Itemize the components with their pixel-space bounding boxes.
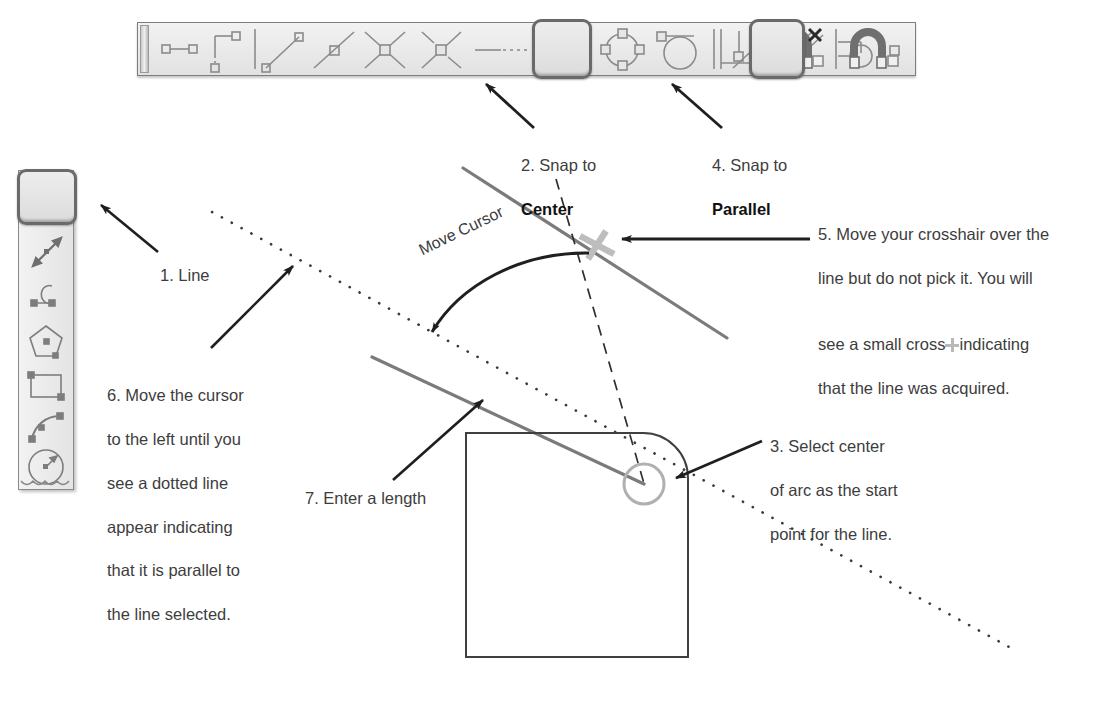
leader-arrow-1: [101, 205, 158, 252]
callout-5-text-line3b: indicating: [959, 335, 1029, 353]
snap-quadrant-icon: [601, 29, 644, 70]
snap-intersection-icon: [365, 32, 405, 68]
snap-parallel-button-pressed[interactable]: [749, 19, 805, 79]
callout-6-move-cursor-left: 6. Move the cursor to the left until you…: [107, 363, 257, 648]
callout-6-text-line1: 6. Move the cursor: [107, 385, 257, 407]
circle-icon: [29, 450, 63, 484]
osnap-settings-magnet-icon: [850, 32, 898, 68]
rectangle-icon: [28, 372, 64, 400]
callout-5-text-line4: that the line was acquired.: [818, 378, 1090, 400]
snap-endpoint-icon: [262, 33, 303, 72]
polygon-icon: [30, 326, 62, 358]
callout-5-text-line3: see a small crossindicating: [818, 312, 1090, 356]
callout-5-crosshair: 5. Move your crosshair over the line but…: [818, 202, 1090, 421]
callout-5-text-line2: line but do not pick it. You will: [818, 268, 1090, 290]
callout-6-text-line2: to the left until you: [107, 429, 257, 451]
object-snap-toolbar[interactable]: [137, 22, 916, 76]
snap-midpoint-icon: [314, 32, 354, 68]
leader-arrow-2: [486, 84, 534, 128]
leader-arrow-4: [672, 84, 722, 128]
callout-3-text-line3: point for the line.: [770, 524, 897, 546]
callout-1-line: 1. Line: [160, 243, 210, 309]
callout-7-enter-length: 7. Enter a length: [305, 466, 426, 532]
move-cursor-arrow: [432, 253, 589, 332]
arc-icon: [29, 413, 63, 442]
snap-apparent-intersection-icon: [422, 32, 461, 68]
callout-3-arc-center: 3. Select center of arc as the start poi…: [770, 414, 897, 568]
callout-1-text: 1. Line: [160, 265, 210, 287]
temporary-track-point-icon: [211, 32, 240, 72]
leader-arrow-6: [211, 266, 293, 348]
leader-arrow-3: [676, 441, 762, 478]
small-cross-icon: [945, 338, 959, 352]
draw-toolbar[interactable]: [18, 170, 74, 490]
callout-5-text-line3a: see a small cross: [818, 335, 945, 353]
snap-center-button-pressed[interactable]: [532, 19, 592, 79]
callout-2-text-line1: 2. Snap to: [521, 155, 596, 177]
callout-2-snap-center: 2. Snap to Center: [521, 133, 596, 243]
snap-tangent-icon: [657, 32, 696, 69]
callout-3-text-line1: 3. Select center: [770, 436, 897, 458]
new-line-being-drawn: [372, 357, 644, 484]
callout-6-text-line5: that it is parallel to: [107, 560, 257, 582]
callout-2-text-line2: Center: [521, 199, 596, 221]
callout-6-text-line3: see a dotted line: [107, 473, 257, 495]
toolbar-grip-handle[interactable]: [140, 25, 149, 73]
callout-7-text: 7. Enter a length: [305, 488, 426, 510]
callout-4-snap-parallel: 4. Snap to Parallel: [712, 133, 787, 243]
callout-4-text-line2: Parallel: [712, 199, 787, 221]
callout-6-text-line6: the line selected.: [107, 604, 257, 626]
callout-5-text-line1: 5. Move your crosshair over the: [818, 224, 1090, 246]
callout-6-text-line4: appear indicating: [107, 517, 257, 539]
draw-line-button-pressed[interactable]: [17, 169, 77, 225]
polyline-icon: [31, 286, 55, 307]
construction-line-icon: [33, 238, 61, 266]
callout-4-text-line1: 4. Snap to: [712, 155, 787, 177]
snap-from-icon: [162, 45, 197, 53]
diagram-canvas: 1. Line 2. Snap to Center 4. Snap to Par…: [0, 0, 1096, 713]
osnap-modes-icon-strip: [718, 23, 916, 75]
callout-3-text-line2: of arc as the start: [770, 480, 897, 502]
